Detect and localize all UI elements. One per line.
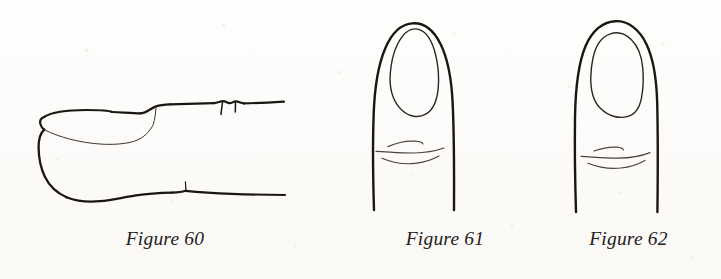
nail-oval-outline: [390, 29, 439, 117]
knuckle-crease-lower: [382, 156, 439, 164]
knuckle-crease-tick-left: [221, 102, 223, 114]
lower-knuckle-junction: [172, 191, 186, 193]
finger-top-contour-right: [244, 102, 284, 104]
figure-62-block: Figure 62: [536, 0, 721, 279]
figure-60-block: Figure 60: [0, 0, 330, 279]
figure-61-block: Figure 61: [352, 0, 538, 279]
knuckle-crease-upper: [388, 141, 423, 146]
nail-upper-contour: [44, 110, 112, 117]
lower-knuckle-crease-tick: [185, 182, 186, 191]
knuckle-crease-middle: [581, 153, 650, 159]
fingertip-front-contour: [39, 130, 67, 198]
cuticle-step: [140, 104, 170, 113]
knuckle-crease-middle: [376, 148, 444, 153]
figure-60-caption: Figure 60: [0, 228, 330, 250]
finger-underside-contour: [67, 193, 173, 202]
nail-plate-top-edge: [112, 112, 140, 113]
finger-underside-contour-right: [186, 191, 286, 195]
figure-62-caption: Figure 62: [536, 228, 721, 250]
figure-61-caption: Figure 61: [352, 228, 538, 250]
scanned-page: Figure 60 Figure 61: [0, 0, 721, 279]
nail-squarish-outline: [591, 33, 643, 118]
knuckle-crease-lower: [588, 160, 645, 168]
nail-free-edge: [40, 117, 44, 130]
upper-knuckle-bump: [214, 101, 244, 103]
knuckle-crease-upper: [594, 147, 623, 151]
finger-top-contour: [170, 103, 214, 104]
